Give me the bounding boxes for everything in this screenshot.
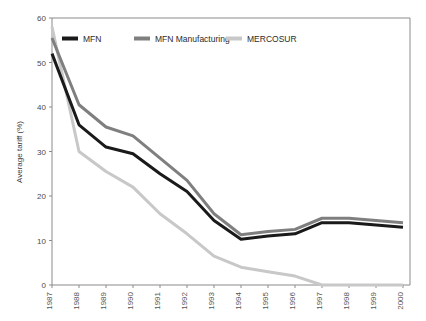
legend-label-mfn: MFN — [83, 34, 101, 44]
y-axis-tick-label: 60 — [37, 14, 46, 23]
y-axis-tick-label: 10 — [37, 237, 46, 246]
x-axis-tick-label: 1997 — [315, 291, 324, 309]
x-axis-tick-label: 1987 — [45, 291, 54, 309]
x-axis-tick-label: 1998 — [342, 291, 351, 309]
chart-figure: 0102030405060 19871988198919901991199219… — [0, 0, 426, 321]
legend-swatch-mfn-manufacturing — [134, 37, 150, 41]
x-axis-tick-label: 1994 — [234, 291, 243, 309]
legend-label-mfn-manufacturing: MFN Manufacturing — [155, 34, 230, 44]
x-axis-tick-label: 1989 — [99, 291, 108, 309]
x-axis-tick-label: 2000 — [396, 291, 405, 309]
x-axis-tick-label: 1993 — [207, 291, 216, 309]
legend-swatch-mfn — [62, 37, 78, 41]
y-axis-tick-label: 20 — [37, 192, 46, 201]
y-axis-title: Average tariff (%) — [15, 121, 24, 183]
x-axis-tick-label: 1990 — [126, 291, 135, 309]
chart-background — [0, 0, 426, 321]
y-axis-tick-label: 30 — [37, 148, 46, 157]
x-axis-tick-label: 1999 — [369, 291, 378, 309]
average-tariff-line-chart: 0102030405060 19871988198919901991199219… — [0, 0, 426, 321]
x-axis-tick-label: 1996 — [288, 291, 297, 309]
y-axis-tick-label: 0 — [42, 281, 47, 290]
chart-legend: MFNMFN ManufacturingMERCOSUR — [62, 34, 297, 44]
x-axis-tick-label: 1988 — [72, 291, 81, 309]
y-axis-tick-label: 40 — [37, 103, 46, 112]
x-axis-tick-label: 1995 — [261, 291, 270, 309]
legend-swatch-mercosur — [226, 37, 242, 41]
y-axis-tick-label: 50 — [37, 59, 46, 68]
x-axis-tick-label: 1991 — [153, 291, 162, 309]
x-axis-tick-label: 1992 — [180, 291, 189, 309]
legend-label-mercosur: MERCOSUR — [247, 34, 297, 44]
